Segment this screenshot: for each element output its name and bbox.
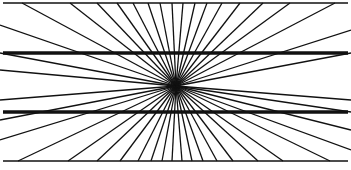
ray-line	[68, 86, 176, 161]
ray-line	[176, 3, 290, 86]
ray-line	[117, 3, 176, 86]
ray-line	[176, 3, 263, 86]
ray-line	[0, 86, 176, 120]
ray-line	[176, 86, 258, 161]
ray-line	[120, 86, 176, 161]
ray-line	[176, 86, 217, 161]
diagram-svg	[0, 0, 351, 170]
ray-line	[138, 86, 176, 161]
ray-line	[70, 3, 176, 86]
ray-line	[176, 3, 335, 86]
ray-line	[176, 86, 351, 150]
hering-illusion-diagram	[0, 0, 351, 170]
ray-line	[176, 86, 283, 161]
